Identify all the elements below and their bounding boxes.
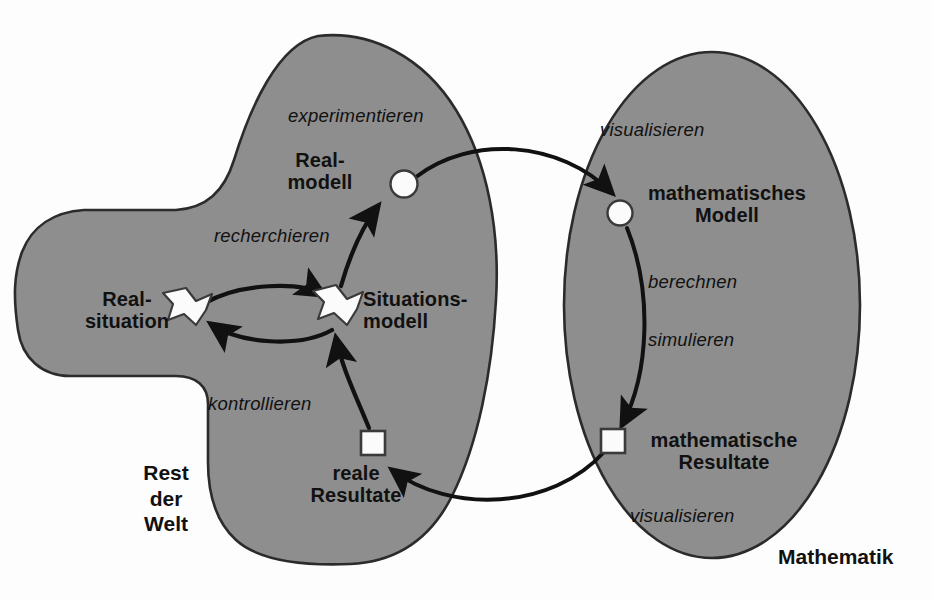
node-marker-mathematisches-modell	[608, 201, 633, 226]
region-rest-der-welt	[15, 35, 497, 564]
node-marker-realmodell	[391, 171, 418, 198]
modelling-cycle-svg	[0, 0, 932, 600]
diagram-canvas: experimentieren Real- modell recherchier…	[0, 0, 932, 600]
region-mathematik	[564, 52, 860, 558]
node-marker-mathematische-resultate	[601, 429, 625, 453]
node-marker-reale-resultate	[361, 431, 385, 455]
